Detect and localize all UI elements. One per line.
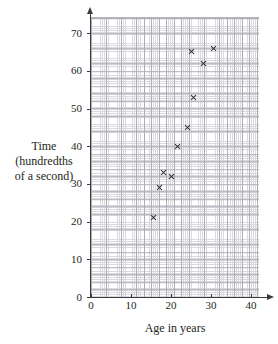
y-tick-label: 0 (60, 292, 82, 303)
data-point-marker (200, 60, 207, 67)
x-axis-line (90, 297, 270, 298)
y-tick-mark (87, 222, 91, 223)
y-axis-title-line-3: of a second) (2, 169, 86, 184)
y-tick-label: 60 (60, 65, 82, 76)
data-point-marker (168, 173, 175, 180)
y-tick-label: 20 (60, 216, 82, 227)
scatter-plot-figure: 010203040 010203040506070 Age in years T… (0, 0, 278, 344)
x-tick-label: 30 (196, 300, 226, 311)
data-point-marker (188, 48, 195, 55)
data-point-marker (174, 143, 181, 150)
x-tick-mark (91, 294, 92, 298)
y-axis-title: Time (hundredths of a second) (2, 139, 86, 184)
x-tick-label: 40 (236, 300, 266, 311)
x-tick-mark (251, 294, 252, 298)
y-axis-line (90, 12, 91, 298)
y-axis-title-line-2: (hundredths (2, 154, 86, 169)
y-axis-arrow-icon (87, 7, 93, 14)
x-tick-label: 10 (116, 300, 146, 311)
y-tick-mark (87, 297, 91, 298)
y-axis-title-line-1: Time (2, 139, 86, 154)
y-tick-label: 50 (60, 103, 82, 114)
x-axis-title: Age in years (91, 321, 259, 336)
x-tick-mark (171, 294, 172, 298)
x-axis-arrow-icon (267, 294, 274, 300)
data-point-marker (160, 169, 167, 176)
y-tick-mark (87, 33, 91, 34)
y-tick-label: 70 (60, 28, 82, 39)
y-tick-mark (87, 259, 91, 260)
y-tick-mark (87, 146, 91, 147)
grid-major-lines (91, 17, 259, 297)
data-point-marker (210, 45, 217, 52)
x-tick-mark (131, 294, 132, 298)
y-tick-mark (87, 109, 91, 110)
x-tick-label: 20 (156, 300, 186, 311)
y-tick-mark (87, 71, 91, 72)
data-point-marker (184, 124, 191, 131)
y-tick-label: 10 (60, 254, 82, 265)
x-tick-mark (211, 294, 212, 298)
data-point-marker (150, 214, 157, 221)
plot-area (91, 17, 259, 297)
data-point-marker (190, 94, 197, 101)
data-point-marker (156, 184, 163, 191)
y-tick-mark (87, 184, 91, 185)
